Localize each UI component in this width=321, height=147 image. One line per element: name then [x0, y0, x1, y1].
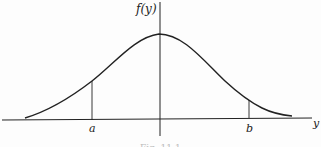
figure-caption: Fig. 11.1 — [140, 143, 181, 147]
density-curve — [25, 34, 292, 118]
x-axis-label: y — [312, 117, 320, 130]
figure: f(y) y a b Fig. 11.1 — [0, 0, 321, 147]
density-plot: f(y) y a b Fig. 11.1 — [0, 0, 321, 147]
marker-a-label: a — [89, 122, 96, 135]
x-axis — [2, 118, 312, 120]
y-axis-label: f(y) — [135, 2, 157, 16]
marker-b-label: b — [246, 122, 253, 135]
